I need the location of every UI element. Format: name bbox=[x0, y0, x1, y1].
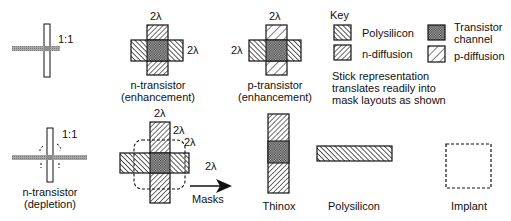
key-note-2: translates readily into bbox=[332, 82, 436, 94]
n-enh-dim-right: 2λ bbox=[187, 44, 199, 56]
p-enh-caption-2: (enhancement) bbox=[230, 91, 320, 103]
key-p-diffusion-label: p-diffusion bbox=[454, 50, 505, 62]
n-dep-dim-top: 2λ bbox=[154, 107, 166, 119]
mask-polysilicon-label: Polysilicon bbox=[324, 200, 384, 212]
n-diffusion-swatch bbox=[334, 45, 351, 60]
mask-implant-label: Implant bbox=[443, 200, 495, 212]
stick-n-enhancement bbox=[12, 24, 60, 77]
p-transistor-enhancement-layout bbox=[249, 25, 301, 75]
key-title: Key bbox=[330, 9, 349, 21]
key-channel-label-2: channel bbox=[454, 33, 493, 45]
key-channel-label-1: Transistor bbox=[454, 21, 503, 33]
stick-dep-caption-2: (depletion) bbox=[10, 198, 90, 210]
n-dep-dim-right-2: 2λ bbox=[184, 136, 196, 148]
masks-arrow bbox=[190, 179, 232, 193]
n-transistor-enhancement-layout bbox=[131, 25, 183, 75]
stick-dep-caption-1: n-transistor bbox=[10, 186, 90, 198]
key-n-diffusion-label: n-diffusion bbox=[362, 48, 413, 60]
n-enh-caption-1: n-transistor bbox=[118, 79, 198, 91]
n-dep-dim-right-1: 2λ bbox=[173, 124, 185, 136]
mask-implant bbox=[446, 144, 491, 188]
mask-thinox-label: Thinox bbox=[258, 200, 300, 212]
n-enh-caption-2: (enhancement) bbox=[113, 91, 203, 103]
p-enh-dim-top: 2λ bbox=[269, 10, 281, 22]
transistor-channel-swatch bbox=[428, 25, 445, 40]
stick-enh-ratio: 1:1 bbox=[58, 33, 73, 45]
n-enh-dim-top: 2λ bbox=[150, 10, 162, 22]
p-diffusion-swatch bbox=[428, 46, 445, 62]
p-enh-dim-left: 2λ bbox=[231, 44, 243, 56]
masks-arrow-label: Masks bbox=[192, 193, 224, 205]
key-polysilicon-label: Polysilicon bbox=[362, 27, 414, 39]
stick-dep-ratio: 1:1 bbox=[62, 128, 77, 140]
key-note-1: Stick representation bbox=[332, 70, 429, 82]
n-dep-dim-right-3: 2λ bbox=[205, 160, 217, 172]
mask-polysilicon bbox=[317, 146, 392, 161]
polysilicon-swatch bbox=[334, 25, 351, 40]
mask-thinox bbox=[268, 114, 289, 193]
key-note-3: mask layouts as shown bbox=[332, 94, 446, 106]
p-enh-caption-1: p-transistor bbox=[235, 79, 315, 91]
